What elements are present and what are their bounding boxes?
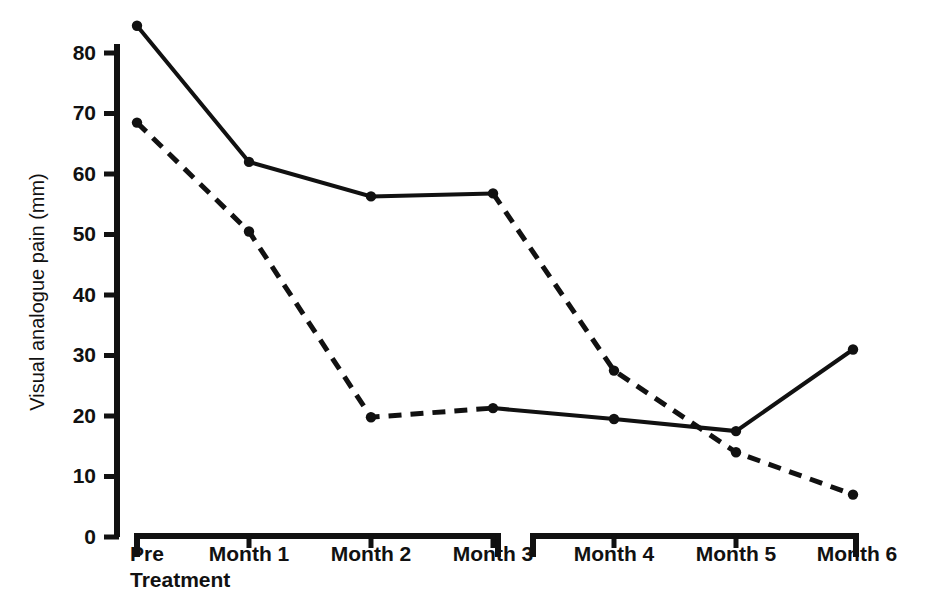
data-point (609, 414, 619, 424)
y-axis-tick-label: 60 (73, 162, 96, 185)
data-point (132, 21, 142, 31)
x-label-month-5: Month 5 (696, 542, 777, 565)
x-label-month-4: Month 4 (574, 542, 655, 565)
data-point (366, 412, 376, 422)
x-label-month-6: Month 6 (817, 542, 897, 565)
lower-series-dashed-path (137, 123, 493, 418)
y-axis-title: Visual analogue pain (mm) (26, 173, 48, 411)
data-point (848, 489, 858, 499)
data-point (244, 157, 254, 167)
x-label-pre-treatment-line2: Treatment (130, 568, 230, 591)
y-axis-tick-label: 70 (73, 101, 96, 124)
y-axis-tick-label: 50 (73, 222, 96, 245)
y-axis-tick-label: 80 (73, 41, 96, 64)
data-point (488, 188, 498, 198)
y-axis-tick-label: 20 (73, 404, 96, 427)
x-label-pre-treatment-line1: Pre (130, 542, 164, 565)
lower-series-markers (132, 117, 858, 436)
y-axis-tick-label: 30 (73, 343, 96, 366)
chart-container: 01020304050607080 Visual analogue pain (… (0, 0, 930, 614)
upper-series-markers (132, 21, 858, 500)
x-label-month-2: Month 2 (331, 542, 411, 565)
data-point (244, 226, 254, 236)
data-point (366, 191, 376, 201)
upper-series-dashed-path (493, 193, 853, 494)
data-point (848, 344, 858, 354)
y-axis-tick-label: 0 (84, 525, 96, 548)
line-chart: 01020304050607080 Visual analogue pain (… (0, 0, 930, 614)
data-point (488, 403, 498, 413)
data-point (731, 447, 741, 457)
x-label-month-3: Month 3 (453, 542, 533, 565)
data-point (132, 117, 142, 127)
y-axis-tick-label: 10 (73, 464, 96, 487)
y-axis-tick-labels: 01020304050607080 (73, 41, 96, 548)
data-point (731, 426, 741, 436)
y-axis-tick-label: 40 (73, 283, 96, 306)
x-label-month-1: Month 1 (209, 542, 290, 565)
lower-series-solid-path (493, 350, 853, 432)
data-point (609, 365, 619, 375)
x-axis-bracket-left (137, 536, 498, 557)
upper-series-solid-path (137, 26, 493, 197)
